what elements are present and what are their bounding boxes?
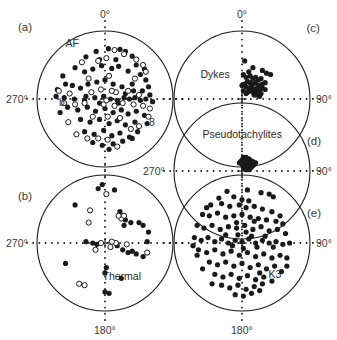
- data-point-open: [117, 115, 122, 120]
- axis-dot-ew-a: [113, 98, 115, 100]
- data-point-filled: [53, 94, 58, 99]
- axis-dot-ns-e: [241, 251, 243, 253]
- axis-dot-ns-a: [104, 156, 106, 158]
- data-point-filled: [121, 223, 126, 228]
- axis-dot-ew-b: [45, 242, 47, 244]
- data-point-open: [121, 52, 126, 57]
- axis-dot-ns-e: [241, 164, 243, 166]
- axis-dot-ew-d: [213, 170, 215, 172]
- angle-label-b-0: 270°: [6, 237, 28, 249]
- data-point-filled: [242, 223, 247, 228]
- data-point-filled: [85, 81, 90, 86]
- angle-label-a-0: 0°: [100, 8, 110, 20]
- data-point-open: [108, 244, 113, 249]
- data-point-filled: [112, 187, 117, 192]
- axis-dot-ns-b: [104, 313, 106, 315]
- axis-dot-ew-c: [306, 98, 308, 100]
- axis-dot-ns-d: [241, 92, 243, 94]
- data-point-filled: [239, 261, 244, 266]
- angle-label-b-1: 180°: [94, 324, 116, 336]
- data-point-filled: [237, 253, 242, 258]
- data-point-open: [134, 57, 139, 62]
- axis-dot-ew-b: [57, 242, 59, 244]
- axis-dot-ew-d: [275, 170, 277, 172]
- data-point-open: [109, 239, 114, 244]
- data-point-filled: [245, 187, 250, 192]
- axis-dot-ew-b: [69, 242, 71, 244]
- angle-label-c-0: 0°: [237, 8, 247, 20]
- axis-dot-ew-d: [293, 170, 295, 172]
- data-point-open: [77, 281, 82, 286]
- axis-dot-ew-c: [312, 98, 314, 100]
- data-point-filled: [90, 66, 95, 71]
- axis-dot-ew-e: [169, 242, 171, 244]
- axis-dot-ns-d: [241, 179, 243, 181]
- data-point-filled: [237, 276, 242, 281]
- data-point-open: [82, 283, 87, 288]
- axis-dot-ew-b: [32, 242, 34, 244]
- axis-dot-ns-e: [241, 282, 243, 284]
- data-point-filled: [131, 88, 136, 93]
- data-point-filled: [209, 223, 214, 228]
- data-point-open: [93, 247, 98, 252]
- axis-dot-ns-c: [241, 26, 243, 28]
- axis-dot-ew-d: [256, 170, 258, 172]
- data-point-open: [90, 114, 95, 119]
- data-point-filled: [252, 204, 257, 209]
- data-point-filled: [267, 228, 272, 233]
- axis-dot-ns-d: [241, 148, 243, 150]
- data-point-filled: [130, 81, 135, 86]
- data-point-filled: [140, 223, 145, 228]
- axis-dot-ew-c: [293, 98, 295, 100]
- data-point-filled: [235, 232, 240, 237]
- angle-label-a-1: 270°: [6, 93, 28, 105]
- axis-dot-ns-a: [104, 32, 106, 34]
- axis-dot-ns-a: [104, 125, 106, 127]
- axis-dot-ns-d: [241, 104, 243, 106]
- data-point-filled: [102, 77, 107, 82]
- data-point-filled: [195, 223, 200, 228]
- data-point-filled: [134, 62, 139, 67]
- axis-dot-ew-d: [299, 170, 301, 172]
- axis-dot-ew-c: [275, 98, 277, 100]
- data-point-filled: [271, 244, 276, 249]
- data-point-filled: [239, 239, 244, 244]
- axis-dot-ns-a: [104, 26, 106, 28]
- data-point-filled: [93, 109, 98, 114]
- data-point-filled: [280, 221, 285, 226]
- data-point-filled: [117, 130, 122, 135]
- data-point-filled: [126, 111, 131, 116]
- data-point-filled: [111, 81, 116, 86]
- data-point-filled: [250, 227, 255, 232]
- data-point-filled: [227, 204, 232, 209]
- data-point-filled: [116, 64, 121, 69]
- axis-dot-ns-d: [241, 111, 243, 113]
- axis-dot-ew-d: [219, 170, 221, 172]
- axis-dot-ew-e: [299, 242, 301, 244]
- data-point-filled: [241, 293, 246, 298]
- data-point-filled: [75, 107, 80, 112]
- data-point-filled: [277, 253, 282, 258]
- data-point-filled: [235, 283, 240, 288]
- axis-dot-ns-c: [241, 113, 243, 115]
- data-point-filled: [106, 121, 111, 126]
- data-point-open: [87, 208, 92, 213]
- data-point-open: [104, 98, 109, 103]
- axis-dot-ns-e: [241, 195, 243, 197]
- data-point-filled: [101, 128, 106, 133]
- axis-dot-ns-c: [241, 39, 243, 41]
- data-point-filled: [106, 147, 111, 152]
- data-point-filled: [248, 215, 253, 220]
- data-point-filled: [200, 212, 205, 217]
- data-point-filled: [145, 239, 150, 244]
- axis-dot-ns-e: [241, 170, 243, 172]
- data-point-open: [124, 242, 129, 247]
- data-point-filled: [257, 94, 262, 99]
- data-point-filled: [205, 235, 210, 240]
- data-point-filled: [245, 273, 250, 278]
- axis-dot-ew-d: [306, 170, 308, 172]
- data-point-filled: [106, 46, 111, 51]
- data-point-filled: [63, 261, 68, 266]
- data-point-filled: [147, 92, 152, 97]
- data-point-filled: [219, 283, 224, 288]
